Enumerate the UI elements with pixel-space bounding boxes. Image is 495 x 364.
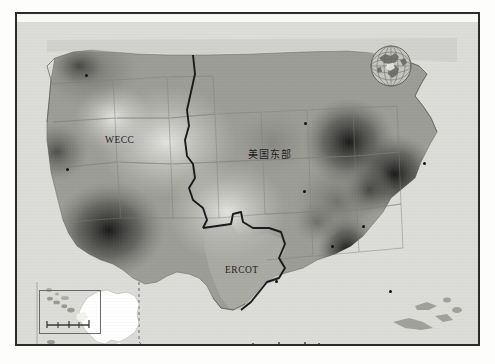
point-marker (331, 245, 334, 248)
caribbean-islands (393, 298, 462, 331)
point-marker (389, 290, 392, 293)
point-marker (275, 280, 278, 283)
region-label-eastern-us: 美国东部 (248, 146, 292, 161)
point-marker (303, 190, 306, 193)
point-marker (85, 74, 88, 77)
figure-page: WECC 美国东部 ERCOT (0, 0, 495, 364)
point-marker (362, 225, 365, 228)
point-marker (423, 162, 426, 165)
region-label-wecc: WECC (105, 135, 134, 145)
main-scale-bar (251, 340, 323, 346)
point-marker (304, 122, 307, 125)
map-frame: WECC 美国东部 ERCOT (15, 12, 480, 346)
hawaii-scale-bar (45, 318, 93, 330)
world-globe-inset (369, 44, 413, 88)
alaska-inset-divider (139, 282, 165, 346)
ocean-background: WECC 美国东部 ERCOT (17, 22, 478, 344)
point-marker (66, 168, 69, 171)
region-label-ercot: ERCOT (225, 265, 259, 275)
